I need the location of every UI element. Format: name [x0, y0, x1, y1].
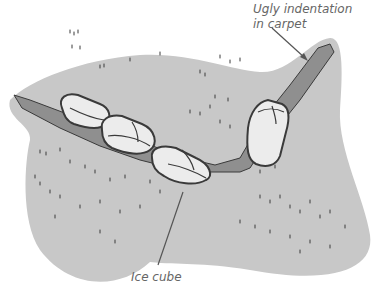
indentation-label-line1: Ugly indentation: [253, 2, 352, 17]
ice-cube-label: Ice cube: [131, 270, 182, 285]
carpet-illustration: [0, 0, 390, 292]
indentation-label: Ugly indentation in carpet: [253, 2, 352, 32]
indentation-label-line2: in carpet: [253, 17, 352, 32]
indentation-leader-line: [272, 28, 305, 58]
